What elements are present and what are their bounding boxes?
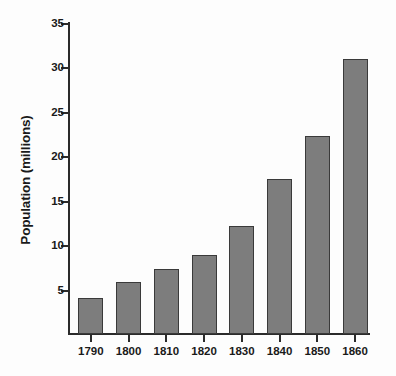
bar <box>78 298 103 334</box>
plot-area: 5101520253035 <box>68 23 388 334</box>
x-axis-tick-label: 1830 <box>229 345 255 357</box>
x-axis-tick <box>279 335 281 342</box>
y-axis-tick-label: 20 <box>51 150 64 162</box>
y-axis-tick-label: 10 <box>51 239 64 251</box>
bar <box>192 255 217 334</box>
x-axis-tick <box>90 335 92 342</box>
y-axis-tick-label: 15 <box>51 195 64 207</box>
population-bar-chart: Population (millions) 5101520253035 1790… <box>0 0 396 376</box>
y-axis-tick-label: 30 <box>51 61 64 73</box>
bar <box>154 269 179 334</box>
x-axis-tick-label: 1790 <box>78 345 104 357</box>
y-axis-tick-label: 25 <box>51 106 64 118</box>
x-axis-tick-label: 1820 <box>191 345 217 357</box>
x-axis-tick <box>128 335 130 342</box>
x-axis-tick-label: 1850 <box>305 345 331 357</box>
x-axis-tick <box>241 335 243 342</box>
bar <box>229 226 254 334</box>
x-axis-tick-label: 1840 <box>267 345 293 357</box>
x-axis-tick-label: 1800 <box>116 345 142 357</box>
bar <box>116 282 141 334</box>
y-axis-title: Population (millions) <box>14 10 36 350</box>
y-axis-tick-label: 35 <box>51 17 64 29</box>
bar <box>267 179 292 334</box>
bar <box>343 59 368 334</box>
x-axis-tick <box>354 335 356 342</box>
x-axis-tick <box>203 335 205 342</box>
x-axis-tick-label: 1810 <box>154 345 180 357</box>
x-axis-tick <box>165 335 167 342</box>
y-axis-tick-label: 5 <box>58 284 64 296</box>
x-axis-tick <box>316 335 318 342</box>
bar <box>305 136 330 334</box>
x-axis-tick-label: 1860 <box>342 345 368 357</box>
